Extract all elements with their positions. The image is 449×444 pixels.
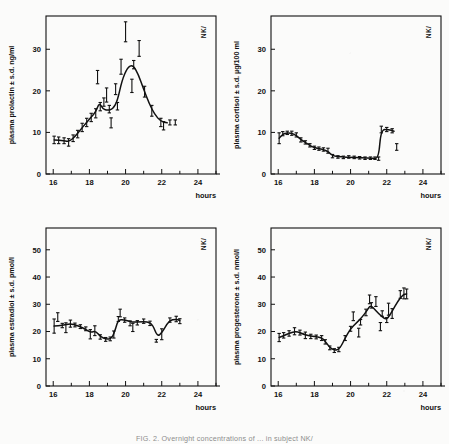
panel-grid: 01020301618202224plasma prolactin ± s.d.…	[0, 0, 449, 424]
svg-text:40: 40	[33, 273, 41, 282]
svg-text:18: 18	[85, 390, 93, 399]
svg-text:NK/: NK/	[425, 26, 432, 38]
svg-text:20: 20	[258, 87, 266, 96]
svg-text:20: 20	[33, 87, 41, 96]
svg-text:24: 24	[419, 178, 428, 187]
svg-text:plasma cortisol ± s.d. µg/100: plasma cortisol ± s.d. µg/100 ml	[232, 41, 241, 149]
svg-text:hours: hours	[420, 191, 441, 200]
panel-progesterone-svg: 010203040501618202224plasma progesterone…	[225, 212, 449, 424]
panel-estradiol: 010203040501618202224plasma estradiol ± …	[0, 212, 224, 424]
svg-text:NK/: NK/	[425, 238, 432, 250]
svg-text:20: 20	[346, 178, 354, 187]
svg-text:20: 20	[33, 327, 41, 336]
svg-text:50: 50	[33, 246, 41, 255]
panel-prolactin-svg: 01020301618202224plasma prolactin ± s.d.…	[0, 0, 224, 212]
svg-text:18: 18	[310, 390, 318, 399]
svg-text:0: 0	[37, 382, 41, 391]
svg-text:10: 10	[33, 128, 41, 137]
svg-text:30: 30	[258, 45, 266, 54]
svg-text:plasma progesterone ± s.d. nmo: plasma progesterone ± s.d. nmol/l	[232, 249, 241, 365]
svg-text:0: 0	[262, 382, 266, 391]
svg-text:18: 18	[310, 178, 318, 187]
svg-text:30: 30	[33, 45, 41, 54]
figure-hormone-profiles: 01020301618202224plasma prolactin ± s.d.…	[0, 0, 449, 444]
error-bars	[52, 22, 177, 146]
svg-text:20: 20	[258, 327, 266, 336]
svg-text:30: 30	[33, 300, 41, 309]
svg-text:22: 22	[383, 178, 391, 187]
svg-text:20: 20	[121, 178, 129, 187]
panel-cortisol-svg: 01020301618202224plasma cortisol ± s.d. …	[225, 0, 449, 212]
panel-estradiol-svg: 010203040501618202224plasma estradiol ± …	[0, 212, 224, 424]
svg-text:24: 24	[194, 390, 203, 399]
svg-text:10: 10	[258, 355, 266, 364]
svg-text:0: 0	[262, 170, 266, 179]
svg-text:0: 0	[37, 170, 41, 179]
figure-caption: FIG. 2. Overnight concentrations of ... …	[0, 432, 449, 444]
svg-text:plasma estradiol ± s.d. pmol/l: plasma estradiol ± s.d. pmol/l	[7, 257, 16, 357]
svg-text:NK/: NK/	[200, 26, 207, 38]
svg-text:plasma prolactin ± s.d. ng/ml: plasma prolactin ± s.d. ng/ml	[7, 46, 16, 145]
svg-text:22: 22	[383, 390, 391, 399]
svg-text:hours: hours	[195, 403, 216, 412]
panel-progesterone: 010203040501618202224plasma progesterone…	[225, 212, 449, 424]
panel-prolactin: 01020301618202224plasma prolactin ± s.d.…	[0, 0, 224, 212]
svg-text:18: 18	[85, 178, 93, 187]
svg-text:22: 22	[158, 390, 166, 399]
panel-cortisol: 01020301618202224plasma cortisol ± s.d. …	[225, 0, 449, 212]
svg-text:hours: hours	[195, 191, 216, 200]
svg-text:24: 24	[194, 178, 203, 187]
svg-text:16: 16	[49, 178, 57, 187]
svg-text:10: 10	[33, 355, 41, 364]
svg-text:50: 50	[258, 246, 266, 255]
svg-text:22: 22	[158, 178, 166, 187]
svg-text:16: 16	[49, 390, 57, 399]
svg-text:30: 30	[258, 300, 266, 309]
svg-text:20: 20	[121, 390, 129, 399]
svg-text:16: 16	[274, 178, 282, 187]
svg-text:10: 10	[258, 128, 266, 137]
svg-text:40: 40	[258, 273, 266, 282]
svg-text:24: 24	[419, 390, 428, 399]
svg-text:hours: hours	[420, 403, 441, 412]
svg-text:16: 16	[274, 390, 282, 399]
svg-text:NK/: NK/	[200, 238, 207, 250]
svg-text:20: 20	[346, 390, 354, 399]
